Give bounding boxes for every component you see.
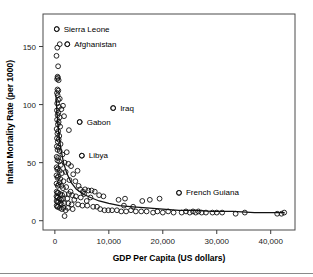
data-point	[89, 188, 94, 193]
x-tick-label: 10,000	[97, 237, 122, 246]
x-tick-label: 40,000	[258, 237, 283, 246]
data-point	[55, 45, 60, 50]
data-point	[54, 53, 59, 58]
plot-canvas: 010,00020,00030,00040,000 050100150 Sier…	[0, 0, 313, 277]
annotation-marker	[177, 190, 182, 195]
data-point	[92, 189, 97, 194]
data-point	[139, 209, 144, 214]
annotations-layer: Sierra LeoneAfghanistanIraqGabonLibyaFre…	[54, 25, 239, 198]
data-point	[101, 194, 106, 199]
annotation-label: Sierra Leone	[64, 25, 110, 34]
y-tick-label: 150	[23, 43, 37, 52]
annotation-marker	[54, 27, 59, 32]
data-point	[67, 128, 72, 133]
x-tick-label: 0	[53, 237, 58, 246]
annotation-label: Afghanistan	[74, 40, 116, 49]
data-point	[155, 209, 160, 214]
y-tick-label: 0	[32, 217, 37, 226]
data-point	[116, 197, 121, 202]
x-axis-ticks: 010,00020,00030,00040,000	[53, 230, 284, 246]
data-point	[71, 172, 76, 177]
annotation-marker	[79, 153, 84, 158]
data-point	[147, 197, 152, 202]
x-tick-label: 20,000	[151, 237, 176, 246]
data-point	[85, 203, 90, 208]
data-point	[62, 214, 67, 219]
annotation-marker	[65, 42, 70, 47]
y-tick-label: 50	[27, 159, 36, 168]
data-point	[75, 168, 80, 173]
footer-divider	[0, 273, 313, 274]
y-axis-ticks: 050100150	[23, 43, 43, 226]
data-point	[140, 199, 145, 204]
y-tick-label: 100	[23, 101, 37, 110]
data-point	[123, 196, 128, 201]
data-point	[144, 209, 149, 214]
data-point	[157, 196, 162, 201]
data-point	[80, 203, 85, 208]
annotation-label: Libya	[89, 151, 109, 160]
y-axis-title: Infant Mortality Rate (per 1000)	[5, 60, 15, 184]
annotation-label: Gabon	[87, 118, 111, 127]
x-tick-label: 30,000	[205, 237, 230, 246]
data-point	[73, 179, 78, 184]
annotation-marker	[77, 120, 82, 125]
data-point	[64, 185, 69, 190]
data-point	[70, 207, 75, 212]
data-point	[119, 209, 124, 214]
annotation-label: French Guiana	[186, 188, 239, 197]
scatter-plot-figure: 010,00020,00030,00040,000 050100150 Sier…	[0, 0, 313, 277]
data-point	[171, 210, 176, 215]
data-point	[133, 209, 138, 214]
annotation-label: Iraq	[120, 104, 134, 113]
data-point	[56, 64, 61, 69]
data-point	[124, 209, 129, 214]
data-point	[160, 210, 165, 215]
x-axis-title: GDP Per Capita (US dollars)	[113, 253, 226, 263]
annotation-marker	[111, 106, 116, 111]
